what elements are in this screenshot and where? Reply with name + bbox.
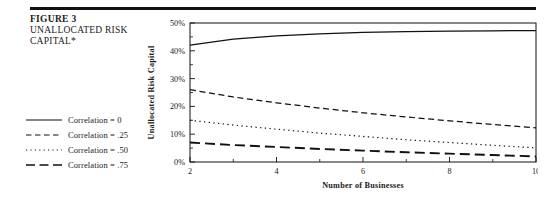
- figure-page: FIGURE 3 UNALLOCATED RISK CAPITAL* Corre…: [0, 0, 544, 202]
- line-long-dashed-icon: [26, 160, 62, 170]
- y-axis-title-text: Unallocated Risk Capital: [147, 45, 156, 139]
- figure-title-line-2: CAPITAL*: [30, 36, 158, 47]
- line-dashed-icon: [26, 130, 62, 140]
- x-axis-ticks: 246810: [188, 157, 538, 176]
- x-axis-title: Number of Businesses: [322, 181, 404, 190]
- y-tick-label: 10%: [170, 130, 185, 139]
- x-axis-title-text: Number of Businesses: [322, 181, 404, 190]
- plot-frame: [190, 23, 536, 162]
- chart-series: [190, 31, 536, 157]
- x-tick-label: 10: [532, 167, 538, 176]
- y-axis-ticks: 0%10%20%30%40%50%: [170, 19, 195, 167]
- legend-item: Correlation = .50: [26, 142, 156, 157]
- line-dotted-icon: [26, 145, 62, 155]
- legend-item: Correlation = .75: [26, 157, 156, 172]
- y-tick-label: 40%: [170, 47, 185, 56]
- y-tick-label: 0%: [174, 158, 185, 167]
- y-axis-title: Unallocated Risk Capital: [147, 45, 156, 139]
- unallocated-risk-capital-chart: Unallocated Risk Capital 0%10%20%30%40%5…: [146, 14, 538, 190]
- chart-plot-area: Unallocated Risk Capital 0%10%20%30%40%5…: [146, 14, 538, 190]
- y-tick-label: 20%: [170, 102, 185, 111]
- legend-item: Correlation = 0: [26, 112, 156, 127]
- series-line: [190, 31, 536, 46]
- x-tick-label: 4: [274, 167, 278, 176]
- x-tick-label: 8: [447, 167, 451, 176]
- top-rule-divider: [30, 7, 536, 10]
- y-tick-label: 30%: [170, 75, 185, 84]
- x-tick-label: 2: [188, 167, 192, 176]
- series-line: [190, 143, 536, 157]
- series-line: [190, 120, 536, 148]
- legend-item-label: Correlation = .25: [68, 130, 128, 140]
- figure-number: FIGURE 3: [30, 14, 158, 25]
- y-tick-label: 50%: [170, 19, 185, 28]
- plot-border: [190, 23, 536, 162]
- legend-item: Correlation = .25: [26, 127, 156, 142]
- legend-item-label: Correlation = .75: [68, 160, 128, 170]
- figure-title-line-1: UNALLOCATED RISK: [30, 25, 158, 36]
- legend-item-label: Correlation = 0: [68, 115, 122, 125]
- x-tick-label: 6: [361, 167, 365, 176]
- series-line: [190, 90, 536, 128]
- line-solid-icon: [26, 115, 62, 125]
- figure-caption-block: FIGURE 3 UNALLOCATED RISK CAPITAL*: [30, 14, 158, 47]
- chart-legend: Correlation = 0 Correlation = .25 Correl…: [26, 112, 156, 172]
- legend-item-label: Correlation = .50: [68, 145, 128, 155]
